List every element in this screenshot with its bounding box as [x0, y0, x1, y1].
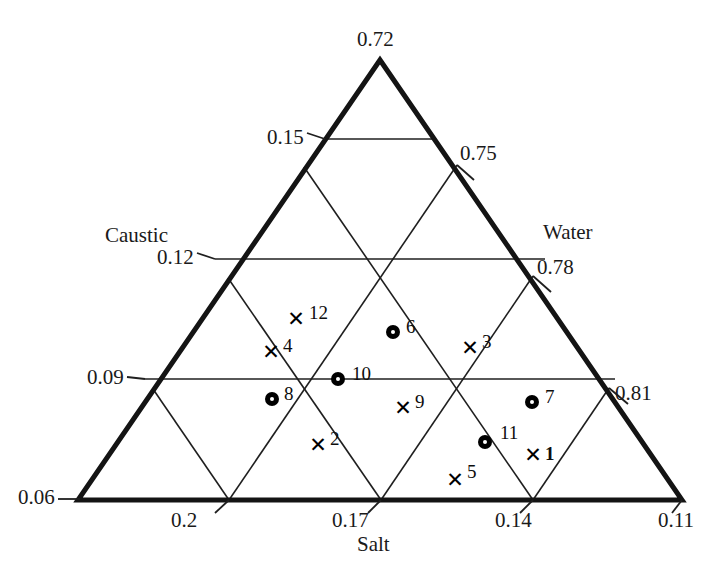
tick-label-left-0.06: 0.06: [18, 487, 55, 508]
o-marker: [265, 392, 279, 406]
x-marker: ✕: [461, 337, 479, 358]
o-marker: [478, 435, 492, 449]
data-point-label: 1: [545, 444, 555, 463]
tick-label-left-0.09: 0.09: [87, 367, 124, 388]
data-point-label: 8: [284, 384, 294, 403]
data-point-label: 2: [330, 429, 340, 448]
tick-label-right-0.75: 0.75: [460, 143, 497, 164]
data-point-label: 3: [482, 332, 492, 351]
o-marker: [525, 395, 539, 409]
tick-left-0.12: [197, 253, 215, 259]
gridline-salt-0.14: [304, 167, 533, 500]
tick-marks: [58, 133, 682, 513]
data-point-label: 4: [283, 336, 293, 355]
axis-title-salt: Salt: [357, 534, 390, 555]
tick-label-left-0.15: 0.15: [267, 127, 304, 148]
x-marker: ✕: [309, 434, 327, 455]
tick-label-right-0.78: 0.78: [537, 257, 574, 278]
gridline-water-0.75: [229, 165, 457, 500]
tick-left-0.09: [127, 377, 145, 379]
axis-title-water: Water: [543, 222, 593, 243]
data-point-label: 7: [545, 387, 555, 406]
data-point-label: 6: [406, 317, 416, 336]
tick-label-bottom-0.14: 0.14: [495, 510, 532, 531]
data-point-label: 5: [467, 462, 477, 481]
tick-label-bottom-0.17: 0.17: [332, 510, 369, 531]
axis-title-caustic: Caustic: [105, 225, 168, 246]
data-point-label: 11: [500, 423, 518, 442]
tick-label-apex-water: 0.72: [357, 29, 394, 50]
tick-left-0.15: [307, 133, 325, 139]
tick-label-left-0.12: 0.12: [157, 247, 194, 268]
tick-label-bottom-0.11: 0.11: [658, 510, 694, 531]
ternary-diagram-page: 0.72 0.15 0.12 0.09 0.06 0.75 0.78 0.81 …: [0, 0, 721, 572]
o-marker: [331, 372, 345, 386]
tick-label-bottom-0.2: 0.2: [171, 510, 197, 531]
x-marker: ✕: [287, 308, 305, 329]
ternary-plot-canvas: [0, 0, 721, 572]
o-marker: [386, 325, 400, 339]
x-marker: ✕: [446, 469, 464, 490]
data-point-label: 12: [309, 303, 328, 322]
x-marker: ✕: [394, 397, 412, 418]
tick-label-right-0.81: 0.81: [615, 383, 652, 404]
x-marker: ✕: [524, 444, 542, 465]
data-point-label: 9: [415, 392, 425, 411]
x-marker: ✕: [262, 341, 280, 362]
gridline-salt-0.2: [153, 389, 229, 500]
data-point-label: 10: [352, 364, 371, 383]
triangle-outline: [78, 60, 682, 500]
